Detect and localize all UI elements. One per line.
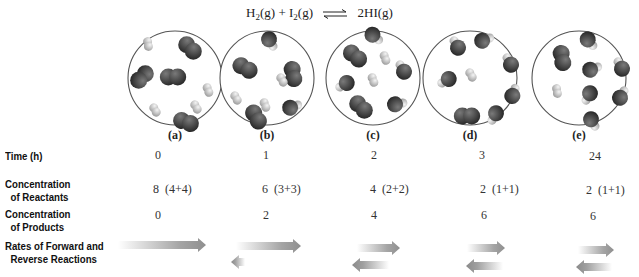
flask-label-d: (d) (450, 128, 490, 143)
flask-e (532, 28, 633, 134)
label-line: Rates of Forward and (5, 240, 104, 252)
reverse-rate-arrow-icon (231, 255, 245, 269)
reverse-rate-arrow-icon (576, 260, 612, 274)
label-line: Concentration (5, 178, 70, 190)
label-line: of Products (5, 221, 70, 234)
products-value-c: 4 (371, 208, 377, 223)
forward-rate-arrow-icon (357, 241, 400, 255)
row-label-rates: Rates of Forward and Reverse Reactions (5, 240, 104, 266)
products-value-b: 2 (263, 208, 269, 223)
forward-rate-arrow-icon (118, 238, 206, 252)
reactants-value-d: 2 (1+1) (480, 182, 519, 197)
flask-diagrams (0, 0, 639, 140)
i2-molecule (454, 108, 480, 125)
flask-circle (532, 31, 626, 125)
reverse-rate-arrow-icon (352, 258, 389, 272)
row-label-reactants: Concentration of Reactants (5, 178, 70, 204)
flask-label-e: (e) (559, 128, 599, 143)
forward-rate-arrow-icon (578, 243, 614, 257)
products-value-e: 6 (590, 209, 596, 224)
time-value-c: 2 (371, 148, 377, 163)
label-line: Concentration (5, 208, 70, 220)
flask-label-a: (a) (155, 128, 195, 143)
flask-label-b: (b) (247, 128, 287, 143)
flask-label-c: (c) (353, 128, 393, 143)
time-value-a: 0 (155, 148, 161, 163)
reactants-value-c: 4 (2+2) (370, 182, 409, 197)
label-line: of Reactants (5, 191, 70, 204)
time-value-b: 1 (263, 148, 269, 163)
i2-molecule (160, 69, 186, 86)
reverse-rate-arrow-icon (466, 259, 503, 273)
label-line: Reverse Reactions (5, 253, 104, 266)
row-label-products: Concentration of Products (5, 208, 70, 234)
flask-a (127, 31, 222, 134)
products-value-a: 0 (155, 208, 161, 223)
forward-rate-arrow-icon (236, 239, 301, 253)
products-value-d: 6 (481, 208, 487, 223)
reactants-value-a: 8 (4+4) (153, 182, 192, 197)
row-label-time: Time (h) (5, 150, 42, 163)
reactants-value-b: 6 (3+3) (262, 182, 301, 197)
flask-d (423, 29, 524, 128)
forward-rate-arrow-icon (467, 241, 505, 255)
time-value-e: 24 (589, 149, 601, 164)
flask-b (220, 28, 314, 132)
time-value-d: 3 (479, 148, 485, 163)
flask-c (326, 23, 420, 125)
reactants-value-e: 2 (1+1) (586, 183, 625, 198)
